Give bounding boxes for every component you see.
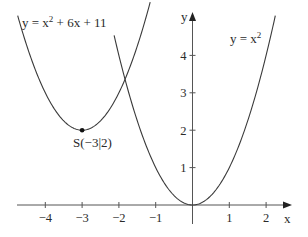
chart-canvas: −4−3−2−1121234 y = x2 + 6x + 11 y = x2 S…	[0, 0, 308, 237]
vertex-marker	[80, 128, 85, 133]
label-left-curve: y = x2 + 6x + 11	[22, 14, 107, 30]
y-tick-label: 4	[180, 49, 187, 63]
vertex-label: S(−3|2)	[73, 135, 112, 150]
y-tick-label: 3	[180, 86, 186, 100]
x-tick-label: −2	[112, 211, 125, 225]
x-tick-label: 2	[263, 211, 269, 225]
x-tick-label: −4	[39, 211, 53, 225]
y-tick-label: 2	[180, 124, 186, 138]
y-axis-label: y	[181, 9, 188, 24]
label-right-curve: y = x2	[230, 30, 261, 46]
x-axis-arrow-icon	[283, 202, 292, 209]
y-axis-arrow-icon	[189, 12, 196, 21]
y-tick-label: 1	[180, 161, 186, 175]
x-tick-label: 1	[226, 211, 232, 225]
x-tick-label: −1	[149, 211, 162, 225]
x-axis-label: x	[284, 211, 291, 226]
x-tick-label: −3	[75, 211, 88, 225]
